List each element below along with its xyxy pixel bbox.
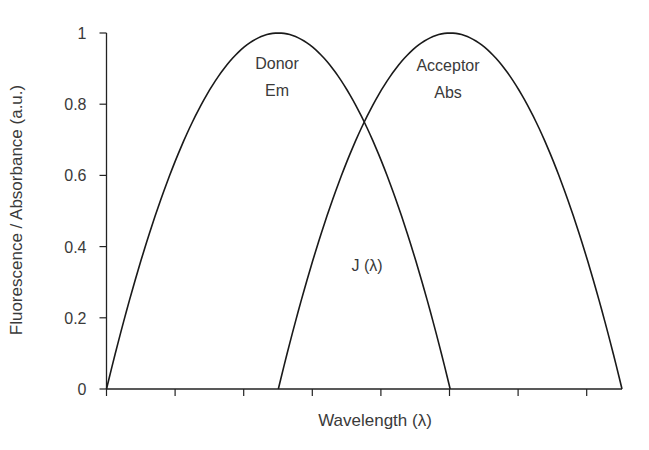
- acceptor-label-line1: Acceptor: [416, 57, 480, 74]
- acceptor-label-line2: Abs: [434, 84, 462, 101]
- y-tick-label: 1: [78, 25, 87, 42]
- y-tick-label: 0.4: [64, 239, 86, 256]
- overlap-integral-label: J (λ): [351, 257, 382, 274]
- y-tick-label: 0.2: [64, 310, 86, 327]
- y-ticks: 00.20.40.60.81: [64, 25, 106, 398]
- donor-label-line1: Donor: [255, 55, 299, 72]
- x-axis-label: Wavelength (λ): [318, 411, 432, 430]
- y-axis-label: Fluorescence / Absorbance (a.u.): [7, 85, 26, 335]
- series-curves: [107, 33, 623, 389]
- donor-label-line2: Em: [265, 82, 289, 99]
- y-tick-label: 0.6: [64, 167, 86, 184]
- x-ticks: [107, 389, 587, 396]
- y-tick-label: 0.8: [64, 96, 86, 113]
- overlap-chart: 00.20.40.60.81 Donor Em Acceptor Abs J (…: [0, 0, 649, 450]
- axes: 00.20.40.60.81: [64, 25, 622, 398]
- y-tick-label: 0: [78, 381, 87, 398]
